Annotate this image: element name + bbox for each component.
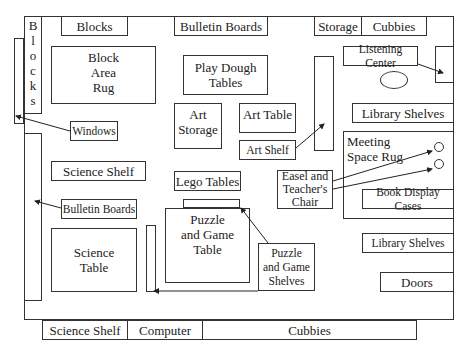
- easel-and-teachers-chair: Easel and Teacher's Chair: [277, 170, 333, 209]
- art-shelf-label: Art Shelf: [239, 140, 296, 160]
- puzzle-and-game-table: Puzzle and Game Table: [165, 208, 250, 283]
- cubbies-bottom: Cubbies: [202, 320, 417, 340]
- art-storage: Art Storage: [174, 103, 222, 149]
- windows-label: Windows: [70, 121, 118, 141]
- blocks-top: Blocks: [61, 16, 128, 36]
- science-table: Science Table: [51, 228, 137, 292]
- library-shelves-upper: Library Shelves: [352, 103, 454, 123]
- windows-upper: [14, 38, 24, 124]
- puzzle-shelf-horizontal: [183, 199, 240, 208]
- library-shelves-lower: Library Shelves: [362, 233, 454, 253]
- listening-center-rug: [380, 71, 408, 89]
- bulletin-boards-top: Bulletin Boards: [174, 16, 268, 36]
- science-shelf-left: Science Shelf: [51, 161, 146, 181]
- block-area-rug: Block Area Rug: [51, 46, 156, 104]
- book-display-cases: Book Display Cases: [362, 189, 454, 209]
- puzzle-shelf-vertical: [146, 225, 156, 292]
- bulletin-boards-left-label: Bulletin Boards: [61, 199, 137, 219]
- blocks-side-label: B l o c k s: [24, 18, 42, 108]
- cubbies-top: Cubbies: [361, 16, 427, 36]
- puzzle-and-game-shelves: Puzzle and Game Shelves: [258, 243, 315, 291]
- easel-marker: [434, 142, 444, 152]
- play-dough-tables: Play Dough Tables: [183, 55, 268, 95]
- lego-tables: Lego Tables: [174, 171, 241, 191]
- science-shelf-bottom: Science Shelf: [42, 320, 128, 340]
- doors: Doors: [380, 272, 454, 292]
- computer: Computer: [127, 320, 203, 340]
- bulletin-boards-left-wall: [24, 133, 42, 301]
- art-shelf: [314, 56, 334, 151]
- teachers-chair-marker: [434, 159, 444, 169]
- art-table: Art Table: [239, 103, 296, 133]
- listening-center-label: Listening Center: [343, 46, 418, 66]
- storage: Storage: [314, 16, 362, 36]
- listening-center: [435, 46, 454, 83]
